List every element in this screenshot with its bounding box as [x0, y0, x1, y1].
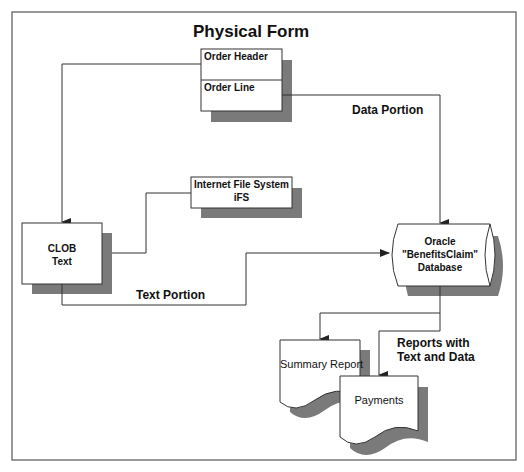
clob-label-line2: Text: [22, 256, 102, 267]
database-label-line1: Oracle: [392, 236, 488, 247]
ifs-label-line1: Internet File System: [191, 179, 292, 190]
text-portion-label: Text Portion: [136, 288, 205, 302]
data-portion-label: Data Portion: [352, 103, 423, 117]
payments-label: Payments: [340, 394, 418, 406]
edge-header-to-clob: [62, 64, 201, 222]
summary-report-label: Summary Report: [280, 358, 360, 370]
ifs-label-line2: iFS: [191, 192, 292, 203]
order-line-label: Order Line: [204, 82, 255, 93]
edge-clob-to-ifs: [102, 193, 191, 253]
reports-label-line1: Reports with: [397, 336, 470, 350]
database-label-line2: "BenefitsClaim": [392, 249, 488, 260]
diagram-title: Physical Form: [193, 22, 303, 42]
order-header-label: Order Header: [204, 51, 268, 62]
database-label-line3: Database: [392, 262, 488, 273]
clob-label-line1: CLOB: [22, 243, 102, 254]
reports-label-line2: Text and Data: [397, 350, 475, 364]
